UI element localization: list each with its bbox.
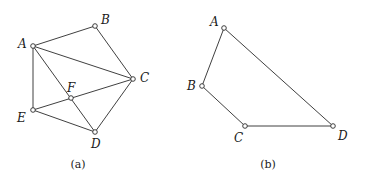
vertex-C [243,124,248,129]
figure-caption: (a) [70,158,85,171]
vertex-label: B [100,13,110,27]
vertex-B [200,84,205,89]
vertex-label: A [17,37,27,51]
edge-A-B [202,28,224,86]
edge-A-D [33,46,95,132]
edge-A-C [33,46,133,79]
edge-E-D [33,110,95,132]
vertex-B [93,24,98,29]
figure-caption: (b) [260,158,276,171]
vertex-label: E [16,111,26,125]
edge-B-C [202,86,245,126]
vertex-F [69,96,74,101]
edge-E-C [33,79,133,110]
edge-B-C [95,26,133,79]
vertex-A [222,26,227,31]
vertex-D [93,130,98,135]
edge-A-D [224,28,333,126]
vertex-label: C [140,71,149,85]
vertex-label: F [66,81,76,95]
vertex-label: D [90,137,101,151]
vertex-label: D [337,129,348,143]
vertex-A [31,44,36,49]
vertex-label: C [234,131,243,145]
graph-diagrams: ABCFED(a) ABCD(b) [0,0,365,181]
vertex-E [31,108,36,113]
vertex-C [131,77,136,82]
edge-A-B [33,26,95,46]
vertex-label: A [209,15,219,29]
vertex-D [331,124,336,129]
figure-b: ABCD(b) [186,15,348,171]
edge-C-D [95,79,133,132]
vertex-label: B [186,79,196,93]
figure-a: ABCFED(a) [16,13,149,171]
